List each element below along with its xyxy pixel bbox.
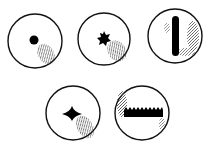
panel-dot (8, 14, 62, 68)
stipple-shadow (164, 23, 170, 33)
diagram-figure (0, 0, 210, 147)
dot-object (30, 36, 39, 45)
stipple-shadow (187, 21, 199, 51)
panel-serrated-bar (115, 86, 169, 140)
panel-star-cluster (78, 13, 131, 65)
stipple-shadow (159, 118, 165, 130)
panel-four-point-star (46, 86, 100, 141)
rod-object (172, 16, 179, 56)
stipple-shadow (177, 48, 195, 56)
panel-rod (148, 9, 202, 63)
